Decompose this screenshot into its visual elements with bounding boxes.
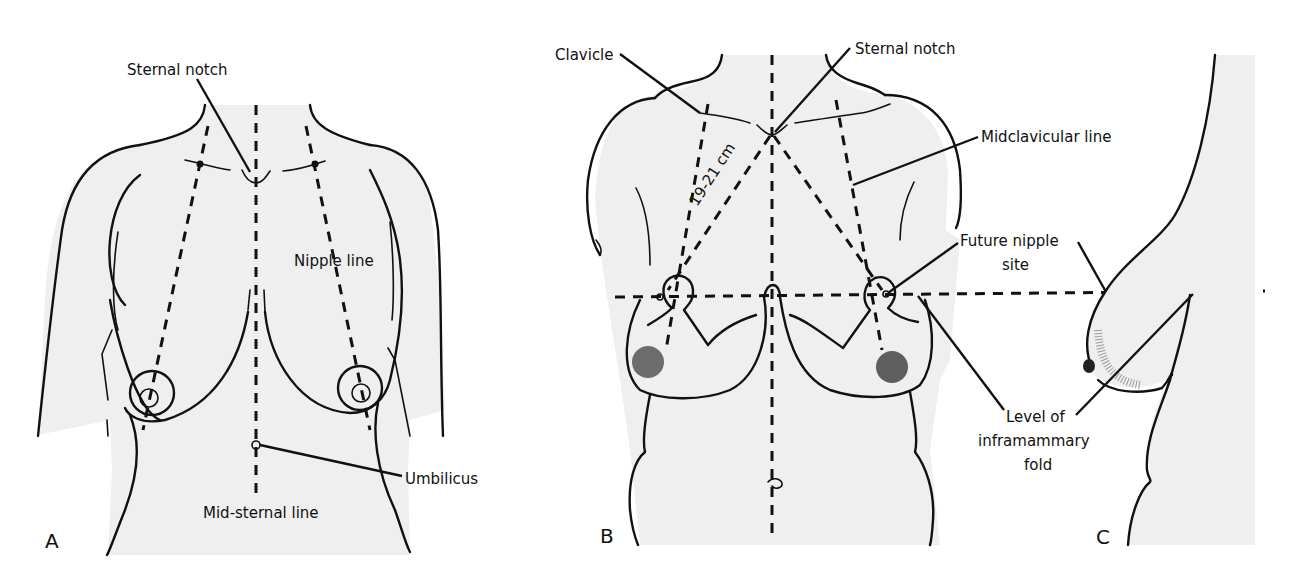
panel-a-label-nipple-line: Nipple line (294, 252, 374, 270)
panel-b-label-future-nipple-1: Future nipple (960, 232, 1059, 250)
panel-a-torso-fill (38, 105, 445, 555)
panel-a: Sternal notch Nipple line Umbilicus Mid-… (38, 61, 478, 555)
panel-b-label-future-nipple-2: site (1002, 256, 1029, 274)
panel-b-left-areola (632, 346, 664, 378)
panel-b-right-areola (876, 351, 908, 383)
panel-a-label-mid-sternal-line: Mid-sternal line (203, 504, 319, 522)
panel-c-torso-fill (1086, 55, 1255, 545)
panel-b-label-sternal-notch: Sternal notch (855, 40, 956, 58)
panel-b-label-inframammary-1: Level of (1006, 408, 1066, 426)
panel-a-label-sternal-notch: Sternal notch (127, 61, 228, 79)
panel-c-future-nipple-leader (1078, 242, 1106, 292)
panel-b-label-clavicle: Clavicle (555, 46, 614, 64)
panel-b-label-inframammary-2: inframammary (978, 432, 1090, 450)
panel-a-label-umbilicus: Umbilicus (405, 470, 478, 488)
panel-c-nipple (1083, 359, 1095, 373)
breast-reduction-markings-figure: Sternal notch Nipple line Umbilicus Mid-… (0, 0, 1293, 569)
panel-b-label-inframammary-3: fold (1024, 456, 1052, 474)
panel-b-label-midclavicular-line: Midclavicular line (981, 128, 1111, 146)
panel-a-letter: A (45, 529, 59, 553)
panel-b-letter: B (600, 524, 614, 548)
panel-c-letter: C (1096, 525, 1110, 549)
